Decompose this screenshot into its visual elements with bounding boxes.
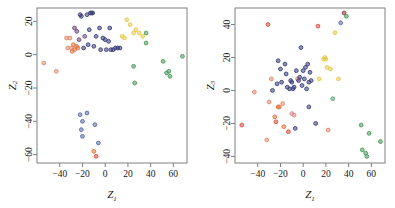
data-point [367,131,371,135]
data-point [81,134,85,138]
data-point [314,122,318,126]
data-point [81,119,85,123]
x-tick-label: 20 [123,169,133,179]
x-axis-title-subscript: 1 [113,195,117,203]
data-point [54,69,58,73]
data-point [77,38,81,42]
data-point [87,28,91,32]
data-point [339,21,343,25]
data-point [144,41,148,45]
y-tick-label: 20 [222,52,232,62]
x-axis-title: Z1 [305,188,315,203]
data-point [277,105,281,109]
y-axis-title-subscript: 2 [11,80,19,84]
data-point [118,46,122,50]
data-point [82,46,86,50]
x-tick-label: 40 [146,169,156,179]
data-point [93,123,97,127]
data-point [79,14,83,18]
data-point [309,79,313,83]
data-point [91,11,95,15]
y-tick-label: 20 [24,16,34,26]
y-tick-label: 40 [222,19,232,29]
data-point [283,62,287,66]
data-point [279,67,283,71]
x-tick-label: −20 [273,169,288,179]
data-point [344,14,348,18]
data-point [294,69,298,73]
data-point [299,46,303,50]
x-axis-title-subscript: 1 [311,195,315,203]
data-point [42,61,46,65]
data-point [141,34,145,38]
data-point [308,70,312,74]
data-point [181,54,185,58]
data-point [144,31,148,35]
plot-frame [37,8,187,163]
data-point [108,26,112,30]
data-point [359,123,363,127]
data-point [329,67,333,71]
scatter-panel-right: −40−20020406040200−20−40Z1Z3 [198,0,395,208]
x-tick-label: 0 [301,169,306,179]
data-point [331,97,335,101]
data-point [96,141,100,145]
x-tick-label: 40 [344,169,354,179]
data-point [298,75,302,79]
data-point [326,128,330,132]
data-point [123,36,127,40]
y-axis-title-subscript: 3 [209,80,217,85]
data-point [98,26,102,30]
data-point [365,155,369,159]
data-point [316,24,320,28]
data-point [290,80,294,84]
data-point [300,84,304,88]
data-point [307,105,311,109]
data-point [99,48,103,52]
y-tick-label: −20 [222,116,232,131]
data-point [292,113,296,117]
data-point [133,81,137,85]
data-point [302,77,306,81]
data-point [78,113,82,117]
data-point [76,46,80,50]
data-point [107,39,111,43]
x-tick-label: 0 [103,169,108,179]
data-point [134,28,138,32]
data-point [167,69,171,73]
y-tick-label: −40 [222,149,232,164]
data-point [75,29,79,33]
data-point [337,77,341,81]
data-point [317,77,321,81]
y-tick-label: 0 [222,88,232,93]
data-point [168,74,172,78]
data-point [85,111,89,115]
scatter-plot-left: −40−200204060200−20−40−60Z1Z2 [0,0,197,208]
data-point [275,82,279,86]
data-point [293,126,297,130]
data-point [271,89,275,93]
x-tick-label: 60 [169,169,179,179]
y-axis-title: Z2 [6,80,19,90]
data-point [284,72,288,76]
data-point [92,149,96,153]
data-point [161,59,165,63]
y-tick-label: −20 [24,80,34,95]
data-point [83,34,87,38]
data-point [292,85,296,89]
data-point [240,123,244,127]
data-point [267,100,271,104]
data-point [280,80,284,84]
y-tick-label: −40 [24,114,34,129]
data-point [86,43,90,47]
data-point [287,130,291,134]
y-axis-title: Z3 [204,80,217,90]
data-point [104,48,108,52]
data-point [333,31,337,35]
x-tick-label: −40 [250,169,265,179]
data-point [92,44,96,48]
data-point [276,59,280,63]
x-tick-label: −20 [75,169,90,179]
data-point [282,125,286,129]
data-point [68,36,72,40]
